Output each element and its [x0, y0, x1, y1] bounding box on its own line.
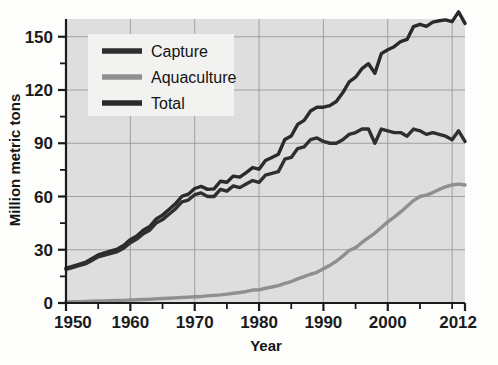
y-tick-label: 0 [44, 294, 53, 313]
x-tick-label: 1990 [305, 313, 343, 332]
legend-label: Total [151, 95, 185, 112]
y-axis-title: Million metric tons [6, 94, 23, 227]
x-axis-tick-labels: 1950196019701980199020002012 [54, 313, 477, 332]
y-tick-label: 150 [25, 28, 53, 47]
legend-label: Aquaculture [151, 69, 236, 86]
x-tick-label: 1980 [240, 313, 278, 332]
y-tick-label: 90 [34, 134, 53, 153]
legend-label: Capture [151, 43, 208, 60]
chart-legend: CaptureAquacultureTotal [88, 34, 236, 116]
x-tick-label: 1960 [111, 313, 149, 332]
y-tick-label: 120 [25, 81, 53, 100]
line-chart: 1950196019701980199020002012 03060901201… [0, 0, 498, 365]
y-tick-label: 30 [34, 241, 53, 260]
y-tick-label: 60 [34, 188, 53, 207]
x-tick-label: 2000 [369, 313, 407, 332]
x-axis-title: Year [250, 337, 282, 354]
y-axis-tick-labels: 0306090120150 [25, 28, 53, 313]
x-tick-label: 1950 [54, 313, 92, 332]
x-tick-label: 1970 [176, 313, 214, 332]
x-tick-label: 2012 [439, 313, 477, 332]
chart-figure: 1950196019701980199020002012 03060901201… [0, 0, 498, 365]
